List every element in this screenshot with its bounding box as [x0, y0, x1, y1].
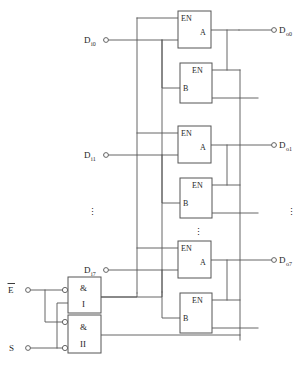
wire-b-in-0 [162, 40, 180, 88]
label-output-1-sub: o1 [286, 146, 292, 152]
pin-output-0[interactable] [272, 28, 277, 33]
label-select-text: S [9, 343, 14, 353]
pin-input-0[interactable] [104, 38, 109, 43]
wire-b-in-7 [162, 270, 180, 318]
label-enable-bar-text: E [8, 285, 14, 295]
label-output-7-sub: o7 [286, 261, 292, 267]
buffer-a-name: A [200, 28, 206, 37]
ellipsis-middle: ⋮ [194, 227, 203, 237]
buffer-a-channel-7: EN A [178, 241, 211, 278]
pin-output-7[interactable] [272, 258, 277, 263]
label-input-0: D i0 [84, 35, 96, 47]
buffer-a-name: A [200, 143, 206, 152]
buffer-a-enable-label: EN [181, 244, 192, 253]
and-gate-1: & I [62, 277, 101, 313]
buffer-b-enable-label: EN [192, 66, 203, 75]
and-gate-2-name: II [80, 339, 86, 349]
label-output-0: D o0 [279, 25, 292, 37]
buffer-a-enable-label: EN [181, 14, 192, 23]
pin-input-7[interactable] [104, 268, 109, 273]
pin-select[interactable] [26, 346, 31, 351]
buffer-a-enable-label: EN [181, 129, 192, 138]
buffer-b-name: B [183, 314, 188, 323]
wire-b-in-1 [162, 155, 180, 203]
label-output-0-sub: o0 [286, 31, 292, 37]
label-output-1-text: D [279, 140, 286, 150]
and-gate-1-name: I [82, 299, 85, 309]
wire-gate1-out [101, 292, 162, 297]
wire-network [30, 18, 276, 348]
buffer-b-channel-0: EN B [180, 63, 212, 103]
pin-enable-bar[interactable] [26, 288, 31, 293]
buffer-a-name: A [200, 258, 206, 267]
label-output-7: D o7 [279, 255, 292, 267]
and-gate-2: & II [62, 315, 101, 353]
label-input-7-sub: i7 [91, 271, 96, 277]
label-input-0-sub: i0 [91, 41, 96, 47]
inversion-bubble-icon [62, 345, 67, 350]
label-input-1-text: D [84, 150, 91, 160]
label-input-0-text: D [84, 35, 91, 45]
buffer-b-channel-7: EN B [180, 293, 212, 333]
circuit-diagram: EN A EN B EN A EN B EN A EN B & I & [0, 0, 303, 365]
inversion-bubble-icon [62, 319, 67, 324]
ellipsis-right: ⋮ [287, 207, 296, 217]
buffer-b-name: B [183, 84, 188, 93]
label-input-1-sub: i1 [91, 156, 96, 162]
label-input-7: D i7 [84, 265, 96, 277]
buffer-a-channel-1: EN A [178, 126, 211, 163]
pin-output-1[interactable] [272, 143, 277, 148]
label-output-0-text: D [279, 25, 286, 35]
wire-ebar-branch [45, 290, 64, 322]
wire-gate1-out-bus [101, 293, 137, 297]
label-input-1: D i1 [84, 150, 96, 162]
label-enable-bar: E [8, 284, 16, 296]
label-output-7-text: D [279, 255, 286, 265]
buffer-b-name: B [183, 199, 188, 208]
ellipsis-left: ⋮ [88, 207, 97, 217]
buffer-b-channel-1: EN B [180, 178, 212, 218]
inversion-bubble-icon [62, 287, 67, 292]
wire-s-branch [57, 303, 68, 348]
and-gate-2-symbol: & [80, 322, 87, 332]
buffer-b-enable-label: EN [192, 296, 203, 305]
label-output-1: D o1 [279, 140, 292, 152]
buffer-b-enable-label: EN [192, 181, 203, 190]
and-gate-1-symbol: & [80, 283, 87, 293]
buffer-a-channel-0: EN A [178, 11, 211, 48]
pin-input-1[interactable] [104, 153, 109, 158]
label-input-7-text: D [84, 265, 91, 275]
